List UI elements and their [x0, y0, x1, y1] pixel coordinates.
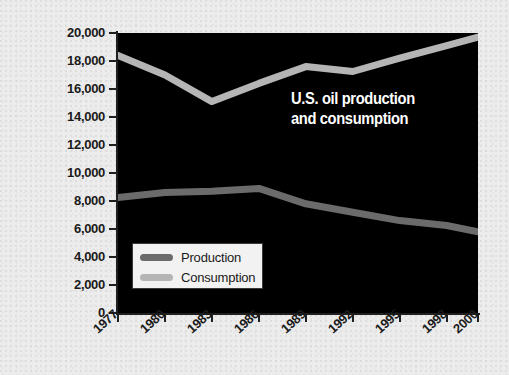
- legend-swatch-production: [140, 254, 173, 261]
- legend-label-production: Production: [181, 250, 241, 265]
- y-axis-tick-label: 14,000: [39, 109, 105, 124]
- y-axis-tick-label: 6,000: [39, 221, 105, 236]
- legend-item-consumption: Consumption: [133, 267, 262, 287]
- annotation-line-2: and consumption: [291, 109, 457, 129]
- y-axis-tick-label: 12,000: [39, 137, 105, 152]
- y-axis-tick-label: 8,000: [39, 193, 105, 208]
- y-axis-tick-label: 2,000: [39, 277, 105, 292]
- chart-legend: Production Consumption: [132, 243, 263, 289]
- chart-annotation: U.S. oil production and consumption: [291, 89, 457, 128]
- legend-label-consumption: Consumption: [181, 270, 255, 285]
- y-axis-tick-label: 18,000: [39, 53, 105, 68]
- y-axis-tick-label: 0: [39, 305, 105, 320]
- y-axis-tick-label: 4,000: [39, 249, 105, 264]
- legend-swatch-consumption: [140, 274, 173, 281]
- annotation-line-1: U.S. oil production: [291, 89, 457, 109]
- y-axis-tick-label: 16,000: [39, 81, 105, 96]
- y-axis-labels: 20,00018,00016,00014,00012,00010,0008,00…: [33, 0, 105, 375]
- y-axis-tick-label: 10,000: [39, 165, 105, 180]
- chart-figure: Thousand barrels per day 20,00018,00016,…: [0, 0, 509, 375]
- y-axis-tick-label: 20,000: [39, 25, 105, 40]
- legend-item-production: Production: [133, 247, 262, 267]
- series-line-production: [118, 188, 478, 231]
